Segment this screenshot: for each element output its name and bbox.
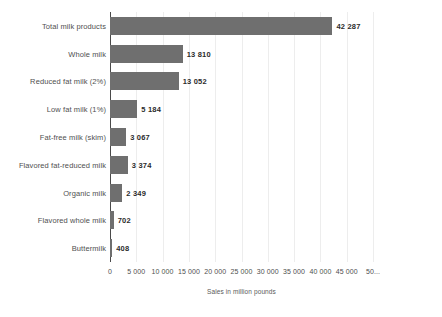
x-tick-label: 15 000 [178,268,200,275]
x-tick-label: 25 000 [230,268,252,275]
x-tick-label: 0 [108,268,112,275]
x-tick-label: 40 000 [309,268,331,275]
bar-value-label: 702 [118,216,131,225]
bar-row: Total milk products42 287 [0,17,442,35]
bar-row: Flavored fat-reduced milk3 374 [0,156,442,174]
bar-value-label: 2 349 [126,188,146,197]
bar-row: Flavored whole milk702 [0,211,442,229]
bar [110,156,128,174]
x-tick-label: 50... [366,268,380,275]
bar [110,72,179,90]
bar-row: Low fat milk (1%)5 184 [0,100,442,118]
bar-value-label: 13 810 [187,49,211,58]
x-axis-tick-labels: 05 00010 00015 00020 00025 00030 00035 0… [0,268,442,280]
bar-value-label: 5 184 [141,105,161,114]
x-axis-title: Sales in million pounds [110,288,373,295]
x-tick-label: 5 000 [127,268,145,275]
bar [110,100,137,118]
x-tick-label: 20 000 [204,268,226,275]
x-tick-label: 10 000 [152,268,174,275]
bar [110,211,114,229]
category-label: Total milk products [0,21,106,30]
bar-row: Fat-free milk (skim)3 067 [0,128,442,146]
category-label: Organic milk [0,188,106,197]
category-label: Whole milk [0,49,106,58]
bar [110,184,122,202]
bar [110,128,126,146]
category-label: Flavored whole milk [0,216,106,225]
bar-value-label: 13 052 [183,77,207,86]
bar-row: Organic milk2 349 [0,184,442,202]
bar-value-label: 42 287 [336,21,360,30]
bar-value-label: 3 067 [130,133,150,142]
category-label: Reduced fat milk (2%) [0,77,106,86]
x-tick-label: 30 000 [257,268,279,275]
category-label: Flavored fat-reduced milk [0,160,106,169]
bar-value-label: 408 [116,244,129,253]
bar-row: Reduced fat milk (2%)13 052 [0,72,442,90]
category-label: Low fat milk (1%) [0,105,106,114]
category-label: Fat-free milk (skim) [0,133,106,142]
category-label: Buttermilk [0,244,106,253]
x-tick-label: 45 000 [336,268,358,275]
chart-figure: 05 00010 00015 00020 00025 00030 00035 0… [0,0,442,317]
bar-row: Whole milk13 810 [0,45,442,63]
bar-value-label: 3 374 [132,160,152,169]
bar-row: Buttermilk408 [0,239,442,257]
bar [110,239,112,257]
bar [110,17,332,35]
x-tick-label: 35 000 [283,268,305,275]
bar [110,45,183,63]
